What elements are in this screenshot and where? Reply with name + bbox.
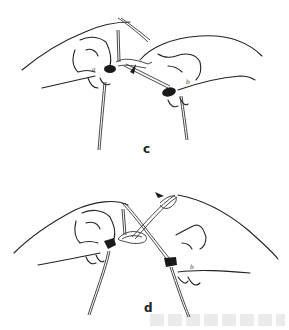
panel-label-d: d xyxy=(144,301,153,315)
hands-tying-knot-step-c-drawing xyxy=(0,0,289,165)
finger-label-a: a xyxy=(92,65,96,72)
faint-bleed-through-text xyxy=(150,314,285,326)
illustration-panel-d: b d xyxy=(0,165,289,330)
panel-label-c: c xyxy=(143,142,150,156)
finger-label-b: b xyxy=(186,78,190,85)
illustration-panel-c: a b c xyxy=(0,0,289,165)
finger-label-b: b xyxy=(190,263,194,270)
